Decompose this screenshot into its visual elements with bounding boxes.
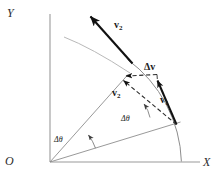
vector-v2-tangent [91, 17, 133, 64]
trajectory-arc [64, 37, 130, 73]
angle-delta-theta-origin [88, 135, 95, 148]
vector-v2-tangent-label: v2 [114, 20, 123, 32]
vector-v2-translated-label: v2 [112, 88, 121, 100]
x-axis-label: X [203, 156, 210, 168]
v1-subscript: 1 [165, 99, 169, 107]
figure-container: Y X O v2 v2 v1 Δv Δθ Δθ [0, 0, 218, 177]
v2-inner-subscript: 2 [117, 92, 121, 100]
angle-delta-theta-origin-label: Δθ [54, 136, 63, 144]
angle-delta-theta-vectors [144, 104, 150, 118]
y-axis-label: Y [7, 7, 14, 19]
radius-position-1 [50, 122, 181, 162]
angle-delta-theta-vectors-label: Δθ [121, 115, 130, 123]
axes-group [50, 14, 200, 162]
vector-delta-v [126, 75, 157, 77]
vector-delta-v-label: Δv [144, 62, 155, 72]
diagram-canvas [0, 0, 218, 177]
delta-theta-vectors-arc [144, 104, 150, 118]
v2-outer-subscript: 2 [119, 24, 123, 32]
vector-v1-label: v1 [160, 95, 169, 107]
delta-theta-origin-arc [88, 135, 95, 148]
origin-label: O [5, 155, 14, 167]
